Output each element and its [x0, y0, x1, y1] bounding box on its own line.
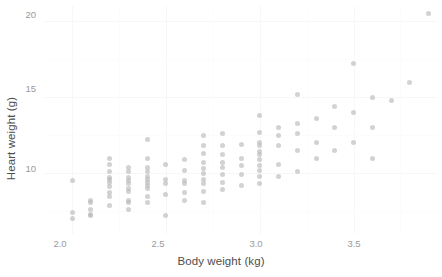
data-point	[145, 174, 150, 179]
data-point	[126, 165, 131, 170]
gridline-y-15	[44, 97, 438, 98]
data-point	[220, 180, 225, 185]
data-point	[314, 140, 319, 145]
gridline-minor-x	[400, 6, 401, 234]
gridline-y-10	[44, 173, 438, 174]
data-point	[332, 125, 337, 130]
data-point	[295, 148, 300, 153]
plot-panel	[44, 6, 438, 234]
x-axis-title: Body weight (kg)	[0, 255, 442, 267]
y-axis-title: Heart weight (g)	[0, 0, 22, 277]
data-point	[182, 168, 187, 173]
data-point	[276, 162, 281, 167]
data-point	[276, 174, 281, 179]
data-point	[182, 190, 187, 195]
gridline-minor-y	[44, 135, 438, 136]
scatter-plot-figure: Heart weight (g) 10 15 20 2.0 2.5 3.0 3.…	[0, 0, 442, 277]
gridline-minor-y	[44, 211, 438, 212]
data-point	[239, 156, 244, 161]
data-point	[88, 212, 93, 217]
data-point	[182, 181, 187, 186]
gridline-minor-x	[119, 6, 120, 234]
data-point	[107, 162, 112, 167]
data-point	[145, 156, 150, 161]
data-point	[314, 116, 319, 121]
data-point	[182, 178, 187, 183]
data-point	[239, 163, 244, 168]
data-point	[220, 152, 225, 157]
data-point	[126, 175, 131, 180]
data-point	[107, 156, 112, 161]
data-point	[295, 121, 300, 126]
x-tick-label-2-5: 2.5	[143, 238, 173, 249]
data-point	[201, 200, 206, 205]
data-point	[145, 194, 150, 199]
gridline-minor-x	[307, 6, 308, 234]
y-tick-label-20: 20	[10, 9, 36, 20]
data-point	[126, 181, 131, 186]
gridline-x-2-0	[72, 6, 73, 234]
data-point	[145, 137, 150, 142]
data-point	[276, 143, 281, 148]
gridline-x-3-0	[260, 6, 261, 234]
y-tick-label-15: 15	[10, 83, 36, 94]
data-point	[182, 198, 187, 203]
data-point	[426, 11, 431, 16]
data-point	[201, 151, 206, 156]
data-point	[201, 160, 206, 165]
data-point	[126, 198, 131, 203]
data-point	[107, 180, 112, 185]
x-tick-label-3-0: 3.0	[241, 238, 271, 249]
data-point	[107, 203, 112, 208]
data-point	[145, 165, 150, 170]
gridline-x-3-5	[354, 6, 355, 234]
data-point	[389, 98, 394, 103]
data-point	[145, 177, 150, 182]
data-point	[220, 160, 225, 165]
data-point	[220, 165, 225, 170]
data-point	[370, 125, 375, 130]
data-point	[332, 104, 337, 109]
data-point	[201, 177, 206, 182]
data-point	[145, 183, 150, 188]
x-tick-label-3-5: 3.5	[339, 238, 369, 249]
data-point	[295, 92, 300, 97]
data-point	[107, 184, 112, 189]
data-point	[182, 157, 187, 162]
data-point	[126, 200, 131, 205]
data-point	[88, 213, 93, 218]
gridline-x-2-5	[166, 6, 167, 234]
data-point	[107, 175, 112, 180]
data-point	[201, 181, 206, 186]
data-point	[145, 200, 150, 205]
data-point	[239, 142, 244, 147]
data-point	[126, 189, 131, 194]
data-point	[407, 80, 412, 85]
gridline-y-20	[44, 21, 438, 22]
data-point	[126, 186, 131, 191]
gridline-minor-x	[213, 6, 214, 234]
data-point	[145, 180, 150, 185]
data-point	[220, 187, 225, 192]
data-point	[107, 177, 112, 182]
data-point	[370, 156, 375, 161]
y-tick-label-10: 10	[10, 163, 36, 174]
data-point	[145, 186, 150, 191]
data-point	[201, 189, 206, 194]
data-point	[201, 166, 206, 171]
data-point	[126, 178, 131, 183]
data-point	[314, 156, 319, 161]
data-point	[107, 190, 112, 195]
data-point	[276, 125, 281, 130]
data-point	[201, 143, 206, 148]
data-point	[88, 198, 93, 203]
data-point	[239, 183, 244, 188]
data-point	[332, 148, 337, 153]
data-point	[88, 200, 93, 205]
x-tick-label-2-0: 2.0	[45, 238, 75, 249]
data-point	[220, 143, 225, 148]
data-point	[107, 194, 112, 199]
gridline-minor-y	[44, 59, 438, 60]
